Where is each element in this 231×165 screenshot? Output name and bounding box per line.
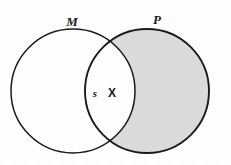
set-label-p: P (153, 12, 162, 27)
set-label-m: M (65, 14, 78, 29)
venn-diagram-canvas: M P s X (0, 0, 231, 165)
annotation-s-mark: s (92, 87, 97, 99)
venn-diagram-svg: M P s X (0, 0, 231, 165)
annotation-x-mark: X (108, 86, 116, 100)
